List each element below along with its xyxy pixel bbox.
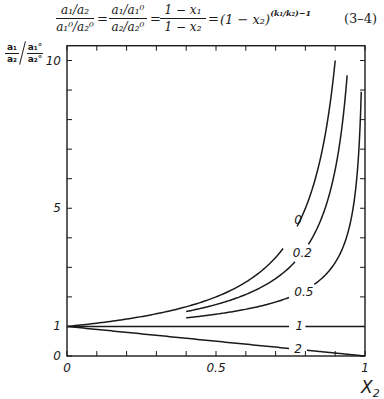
curve-label-0: 0: [294, 213, 302, 227]
curve-k-0: [297, 61, 335, 227]
curve-label-0-5: 0.5: [294, 285, 313, 299]
curve-label-1: 1: [296, 319, 304, 333]
x-axis-label: X2: [360, 377, 380, 399]
x-axis-label-subscript: 2: [373, 387, 380, 399]
curves: [67, 61, 365, 357]
x-axis-label-text: X: [360, 377, 373, 397]
curve-k-0-2: [308, 75, 347, 244]
plot-frame: [67, 46, 365, 356]
y-tick-label: 5: [53, 201, 61, 215]
curve-k-0: [67, 249, 283, 327]
y-tick-label: 0: [53, 349, 61, 363]
x-tick-label: 0.5: [206, 361, 225, 375]
y-tick-label: 10: [46, 54, 62, 68]
curve-k-0-2: [186, 262, 295, 312]
x-tick-label: 0: [63, 361, 71, 375]
curve-k-2: [307, 350, 365, 356]
curve-labels: 00.20.512: [293, 213, 314, 356]
plot-area: 00.5101510 00.20.512 X2: [0, 0, 384, 399]
curve-label-2: 2: [294, 342, 302, 356]
y-tick-label: 1: [53, 319, 61, 333]
x-tick-label: 1: [361, 361, 369, 375]
curve-label-0-2: 0.2: [293, 246, 312, 260]
curve-k-2: [67, 326, 289, 348]
axes-box: [67, 46, 365, 356]
curve-k-0-5: [314, 92, 361, 285]
axis-ticks: [67, 46, 365, 356]
